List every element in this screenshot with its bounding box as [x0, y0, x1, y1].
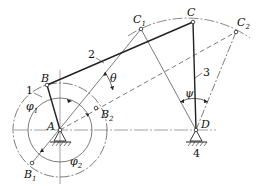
- joint-b1: [30, 161, 34, 165]
- theta-arrow-bottom: [110, 86, 114, 90]
- label-phi1: φ1: [26, 100, 38, 115]
- extreme-line-b1-c1: [32, 29, 141, 163]
- label-b1: B1: [23, 168, 37, 183]
- label-b2: B2: [100, 108, 114, 123]
- leader-3: [195, 73, 202, 78]
- label-a: A: [46, 120, 55, 133]
- rocker-position-c1: [141, 29, 196, 130]
- label-c2: C2: [237, 16, 250, 31]
- joint-b2: [94, 106, 98, 110]
- label-c1: C1: [133, 13, 146, 28]
- label-psi: ψ: [185, 87, 194, 100]
- label-link-4: 4: [193, 147, 200, 160]
- label-c: C: [187, 6, 196, 19]
- joint-d: [194, 128, 198, 132]
- label-phi2: φ2: [70, 155, 83, 170]
- coupler-bc: [47, 22, 193, 85]
- extreme-line-a-c2: [60, 32, 236, 130]
- rocker-cd: [193, 22, 196, 130]
- label-b: B: [40, 72, 49, 85]
- linkage-diagram: A B B1 B2 C C1 C2 D 1 2 3 4 θ ψ φ1 φ2: [0, 0, 262, 186]
- label-link-3: 3: [203, 66, 210, 79]
- label-d: D: [200, 118, 210, 131]
- label-theta: θ: [110, 72, 117, 85]
- label-link-1: 1: [26, 84, 33, 97]
- joint-a: [58, 128, 62, 132]
- rocker-position-c2: [196, 32, 236, 130]
- leader-1: [34, 93, 42, 97]
- ground-pivot-d: [186, 130, 207, 146]
- phi-arrow-right: [85, 113, 89, 117]
- joint-c: [191, 20, 195, 24]
- label-link-2: 2: [88, 48, 95, 61]
- rocker-arc: [128, 18, 250, 38]
- joint-c2: [234, 30, 238, 34]
